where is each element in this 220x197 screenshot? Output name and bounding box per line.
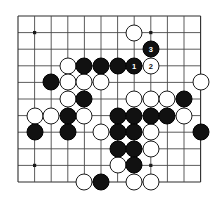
stone-white[interactable] xyxy=(76,174,93,191)
stone-black[interactable] xyxy=(26,124,43,141)
stone-white[interactable] xyxy=(59,91,76,108)
stone-black[interactable] xyxy=(126,157,143,174)
stone-white[interactable] xyxy=(59,74,76,91)
stone-white[interactable] xyxy=(159,91,176,108)
star-point xyxy=(33,31,36,34)
stone-black[interactable] xyxy=(176,91,193,108)
stone-white[interactable] xyxy=(76,74,93,91)
stone-white[interactable] xyxy=(176,107,193,124)
stone-white[interactable] xyxy=(26,107,43,124)
stone-black[interactable] xyxy=(76,91,93,108)
stone-black[interactable] xyxy=(109,57,126,74)
star-point xyxy=(149,164,152,167)
move-number-label: 2 xyxy=(143,58,158,73)
stone-white[interactable] xyxy=(142,124,159,141)
stone-white[interactable] xyxy=(126,174,143,191)
stone-black[interactable] xyxy=(159,107,176,124)
stone-black[interactable] xyxy=(126,124,143,141)
stone-black[interactable] xyxy=(109,124,126,141)
stone-black[interactable] xyxy=(59,124,76,141)
stone-white[interactable] xyxy=(93,74,110,91)
stone-white[interactable] xyxy=(43,107,60,124)
stone-black[interactable] xyxy=(126,140,143,157)
stone-black[interactable] xyxy=(142,107,159,124)
stone-black[interactable] xyxy=(126,107,143,124)
stone-black[interactable] xyxy=(93,174,110,191)
stone-black-move-1[interactable]: 1 xyxy=(126,57,143,74)
stone-black[interactable] xyxy=(93,57,110,74)
stone-black[interactable] xyxy=(76,57,93,74)
stone-black[interactable] xyxy=(192,124,209,141)
stone-white-move-2[interactable]: 2 xyxy=(142,57,159,74)
stone-black[interactable] xyxy=(109,140,126,157)
stone-white[interactable] xyxy=(93,124,110,141)
stone-black[interactable] xyxy=(59,107,76,124)
stone-black[interactable] xyxy=(43,74,60,91)
stone-white[interactable] xyxy=(142,91,159,108)
stone-white[interactable] xyxy=(142,174,159,191)
stone-white[interactable] xyxy=(109,157,126,174)
stone-white[interactable] xyxy=(126,24,143,41)
stone-white[interactable] xyxy=(126,91,143,108)
move-number-label: 3 xyxy=(143,42,158,57)
star-point xyxy=(149,31,152,34)
move-number-label: 1 xyxy=(127,58,142,73)
star-point xyxy=(33,164,36,167)
go-board-diagram: 312 xyxy=(0,0,220,197)
stone-white[interactable] xyxy=(142,140,159,157)
stone-black[interactable] xyxy=(109,107,126,124)
stone-white[interactable] xyxy=(76,107,93,124)
stone-white[interactable] xyxy=(192,74,209,91)
stone-white[interactable] xyxy=(59,57,76,74)
stone-black-move-3[interactable]: 3 xyxy=(142,41,159,58)
